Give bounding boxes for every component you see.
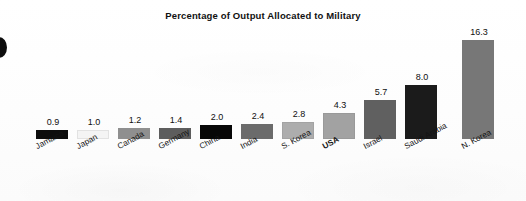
bar-group: 16.3N. Korea [462, 0, 496, 201]
bar-rect [323, 113, 355, 139]
bar-rect [364, 100, 396, 139]
bar-rect [462, 40, 494, 139]
bar-value-label: 1.2 [113, 115, 157, 125]
bar-group: 2.4India [241, 0, 275, 201]
bar-value-label: 2.4 [236, 111, 280, 121]
bar-value-label: 8.0 [400, 72, 444, 82]
bar-value-label: 1.4 [154, 115, 198, 125]
bar-value-label: 0.9 [31, 117, 75, 127]
bar-value-label: 4.3 [318, 100, 362, 110]
bar-group: 2.0China [200, 0, 234, 201]
bar-chart-plot-area: 0.9Jamaica1.0Japan1.2Canada1.4Germany2.0… [0, 0, 526, 201]
bar-value-label: 5.7 [359, 87, 403, 97]
bar-group: 1.4Germany [159, 0, 193, 201]
bar-value-label: 2.0 [195, 112, 239, 122]
bar-group: 8.0Saudi Arabia [405, 0, 439, 201]
bar-value-label: 2.8 [277, 109, 321, 119]
bar-group: 1.2Canada [118, 0, 152, 201]
bar-value-label: 1.0 [72, 117, 116, 127]
bar-rect [241, 124, 273, 139]
bar-group: 4.3USA [323, 0, 357, 201]
bar-group: 0.9Jamaica [36, 0, 70, 201]
bar-group: 1.0Japan [77, 0, 111, 201]
bar-group: 5.7Israel [364, 0, 398, 201]
bar-group: 2.8S. Korea [282, 0, 316, 201]
chart-screenshot: Percentage of Output Allocated to Milita… [0, 0, 526, 201]
bar-value-label: 16.3 [457, 27, 501, 37]
